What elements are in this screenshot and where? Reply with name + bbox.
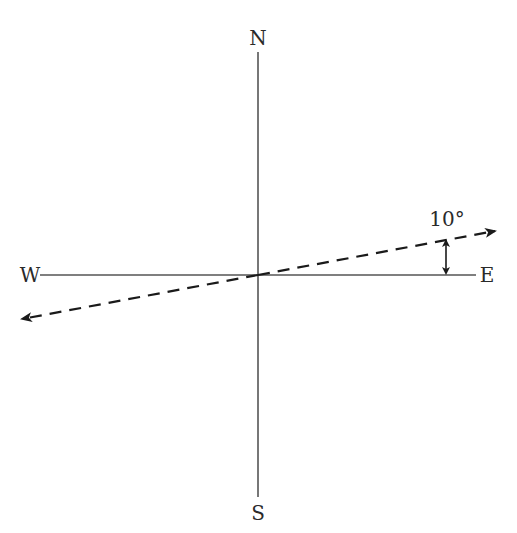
label-east: E — [480, 263, 495, 287]
compass-diagram: N S W E 10° — [0, 0, 517, 533]
angle-label: 10° — [429, 207, 464, 231]
label-west: W — [20, 263, 41, 287]
label-south: S — [251, 501, 265, 525]
label-north: N — [249, 26, 267, 50]
vector-east-arrow — [258, 231, 495, 275]
vector-west-arrow — [22, 275, 258, 319]
